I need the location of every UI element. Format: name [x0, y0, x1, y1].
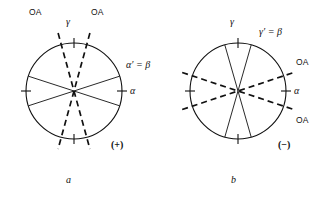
panel-b-oa-lower-label: OA: [296, 116, 309, 125]
panel-b-alpha-label: α: [294, 86, 299, 96]
panel-b-sign-label: (−): [278, 140, 290, 150]
panel-b-gamma-label: γ: [230, 17, 234, 27]
panel-a-graphics: [21, 33, 127, 149]
figure-root: OA OA γ α′ = β α (+) a γ γ′ = β OA α OA …: [0, 0, 326, 200]
panel-a-caption: a: [66, 175, 71, 185]
panel-a-oa-right-label: OA: [91, 8, 104, 17]
panel-b-graphics: [182, 38, 294, 144]
panel-a-alpha-prime-beta-label: α′ = β: [126, 60, 150, 70]
panel-b-gamma-prime-beta-label: γ′ = β: [259, 27, 282, 37]
panel-a-gamma-label: γ: [66, 17, 70, 27]
panel-a-alpha-label: α: [130, 86, 135, 96]
panel-b-oa-upper-label: OA: [296, 58, 309, 67]
panel-a-oa-left-label: OA: [29, 8, 42, 17]
panel-a-sign-label: (+): [111, 140, 123, 150]
panel-b-caption: b: [231, 175, 236, 185]
